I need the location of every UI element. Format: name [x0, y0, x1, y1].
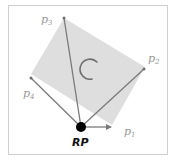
point-p3 [63, 17, 66, 20]
label-p4: p4 [23, 87, 35, 101]
label-rp: RP [72, 136, 89, 149]
rotated-rectangle [31, 18, 145, 125]
point-p4 [30, 77, 33, 80]
reference-point [76, 122, 86, 132]
rotation-diagram: p1 p2 p3 p4 RP [0, 0, 177, 163]
label-p1: p1 [124, 125, 136, 139]
point-p2 [143, 68, 146, 71]
label-p3: p3 [41, 13, 53, 27]
label-p2: p2 [148, 52, 160, 66]
